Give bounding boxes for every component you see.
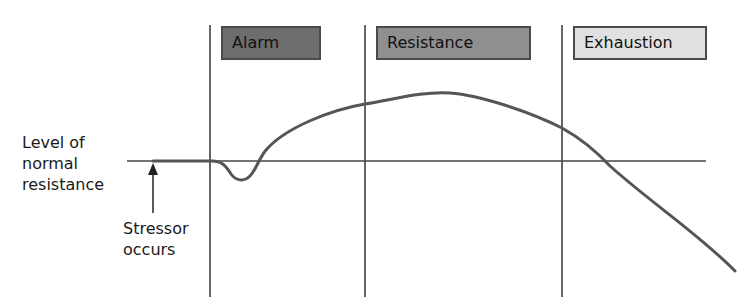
baseline-label-line1: Level of <box>22 132 104 153</box>
stressor-arrow-icon <box>148 163 158 175</box>
stage-resistance-label: Resistance <box>387 33 473 52</box>
resistance-curve <box>153 93 735 271</box>
baseline-label: Level of normal resistance <box>22 132 104 195</box>
stressor-label-line1: Stressor <box>123 218 189 239</box>
stage-alarm-label: Alarm <box>232 33 279 52</box>
stage-resistance: Resistance <box>376 26 531 60</box>
stressor-label: Stressor occurs <box>123 218 189 260</box>
stage-alarm: Alarm <box>221 26 321 60</box>
stage-exhaustion: Exhaustion <box>573 26 707 60</box>
baseline-label-line2: normal <box>22 153 104 174</box>
stage-exhaustion-label: Exhaustion <box>584 33 673 52</box>
baseline-label-line3: resistance <box>22 174 104 195</box>
gas-diagram: Alarm Resistance Exhaustion Level of nor… <box>0 0 743 307</box>
stressor-label-line2: occurs <box>123 239 189 260</box>
